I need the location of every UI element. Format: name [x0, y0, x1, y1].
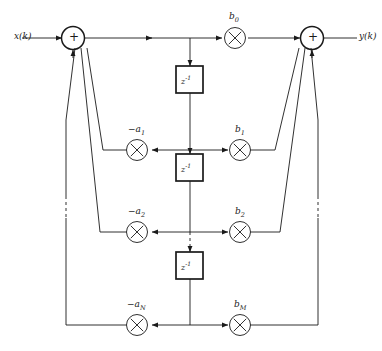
row3-feedforward-return: [311, 48, 318, 196]
coefficient-label-a2: −a2: [128, 206, 145, 219]
diagram-canvas: [0, 0, 382, 351]
aN-base: −a: [127, 299, 140, 309]
delay-2-exponent: -1: [185, 162, 191, 169]
row1-feedback-return: [87, 48, 127, 150]
delay-block-3-label: z-1: [181, 260, 191, 272]
coefficient-label-bM: bM: [234, 299, 246, 312]
b0-subscript: 0: [235, 16, 239, 24]
coefficient-label-aN: −aN: [127, 299, 146, 312]
row3-feedback-rail: [66, 218, 127, 325]
delay-block-1-label: z-1: [181, 74, 191, 86]
output-adder-symbol: +: [308, 30, 318, 44]
row3-feedforward-rail: [251, 218, 319, 325]
row3-feedback-return: [66, 48, 75, 196]
b1-subscript: 1: [241, 129, 245, 137]
a1-base: −a: [128, 124, 141, 134]
coefficient-label-b0: b0: [229, 11, 239, 24]
input-adder-symbol: +: [69, 30, 79, 44]
delay-1-exponent: -1: [185, 74, 191, 81]
coefficient-label-a1: −a1: [128, 124, 145, 137]
input-signal-label: x(k): [14, 31, 32, 41]
bM-subscript: M: [240, 304, 247, 312]
aN-subscript: N: [140, 304, 146, 312]
a2-base: −a: [128, 206, 141, 216]
a1-subscript: 1: [141, 129, 145, 137]
coefficient-label-b2: b2: [235, 206, 245, 219]
output-signal-label: y(k): [359, 31, 377, 41]
delay-block-2-label: z-1: [181, 162, 191, 174]
a2-subscript: 2: [141, 211, 145, 219]
coefficient-label-b1: b1: [235, 124, 245, 137]
row1-feedforward-return: [251, 48, 300, 150]
signal-flow-diagram: x(k) y(k) + + z-1 z-1 z-1 b0 −a1 b1 −a2 …: [0, 0, 382, 351]
delay-3-exponent: -1: [185, 260, 191, 267]
b2-subscript: 2: [241, 211, 245, 219]
row2-feedback-return: [81, 48, 127, 232]
